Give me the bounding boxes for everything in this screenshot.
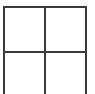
- grid-line-vertical-right: [85, 6, 87, 94]
- two-by-two-grid: [0, 0, 95, 94]
- grid-cell-bottom-right[interactable]: [46, 53, 85, 94]
- grid-cell-top-left[interactable]: [5, 8, 44, 51]
- grid-line-vertical-center: [44, 6, 46, 94]
- grid-line-vertical-left: [3, 6, 5, 94]
- grid-cell-bottom-left[interactable]: [5, 53, 44, 94]
- grid-cell-top-right[interactable]: [46, 8, 85, 51]
